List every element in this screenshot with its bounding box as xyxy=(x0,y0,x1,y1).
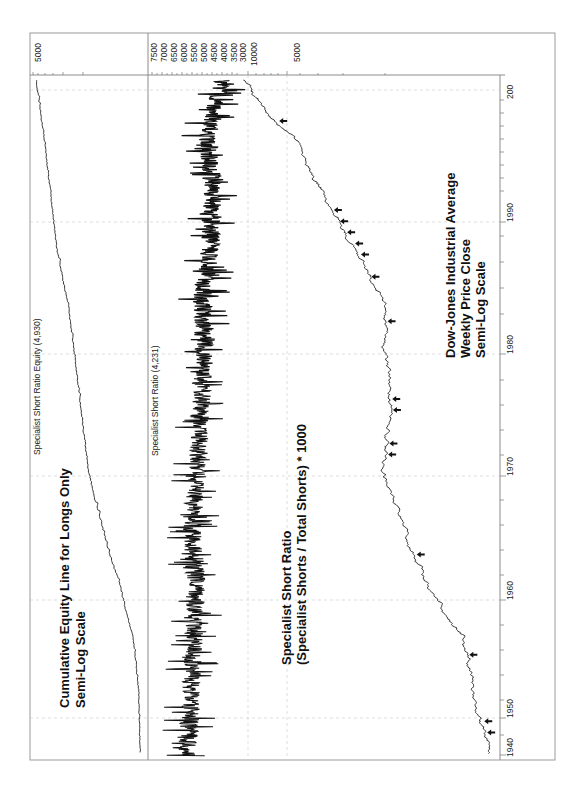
specialist-ratio-line xyxy=(163,80,246,756)
buy-arrow-icon xyxy=(279,118,287,124)
ratio-axis-label-6000: 6000 xyxy=(179,43,189,62)
equity-panel-title: Specialist Short Ratio Equity (4,930) xyxy=(32,318,42,455)
ratio-axis-label-7500: 7500 xyxy=(149,43,159,62)
buy-arrow-icon xyxy=(355,240,363,246)
buy-arrow-icon xyxy=(388,318,396,324)
ratio-axis-label-3000: 3000 xyxy=(238,43,248,62)
date-label-1990: 1990 xyxy=(505,203,515,222)
ratio-axis-label-6500: 6500 xyxy=(169,43,179,62)
buy-arrow-icon xyxy=(469,652,477,658)
date-axis-ticks xyxy=(500,100,506,755)
date-axis-labels: 200 1990 1980 1970 1960 1950 1940 xyxy=(505,85,515,757)
buy-arrow-icon xyxy=(484,718,492,724)
svg-text:Cumulative Equity Line for Lon: Cumulative Equity Line for Longs Only xyxy=(57,467,72,708)
equity-axis-label: 5000 xyxy=(33,43,43,62)
buy-arrow-icon xyxy=(393,407,401,413)
ratio-annotation: Specialist Short Ratio (Specialist Short… xyxy=(279,424,309,665)
svg-text:(Specialist Shorts / Total Sho: (Specialist Shorts / Total Shorts) * 100… xyxy=(294,424,309,665)
ratio-axis-label-5500: 5500 xyxy=(189,43,199,62)
djia-axis-label-5000: 5000 xyxy=(292,43,302,62)
djia-annotation: Dow-Jones Industrial Average Weekly Pric… xyxy=(443,173,488,358)
date-label-2000: 200 xyxy=(505,85,515,99)
svg-text:Specialist Short Ratio: Specialist Short Ratio xyxy=(279,531,294,665)
buy-arrow-icon xyxy=(371,274,379,280)
ratio-panel-title: Specialist Short Ratio (4,231) xyxy=(150,345,160,456)
buy-arrow-icon xyxy=(389,440,397,446)
date-label-1970: 1970 xyxy=(505,457,515,476)
buy-arrow-icon xyxy=(361,252,369,258)
svg-text:Weekly Price Close: Weekly Price Close xyxy=(458,239,473,358)
buy-arrow-icon xyxy=(417,552,425,558)
date-label-1940: 1940 xyxy=(505,738,515,757)
buy-arrow-icon xyxy=(392,396,400,402)
svg-text:Dow-Jones Industrial Average: Dow-Jones Industrial Average xyxy=(443,173,458,358)
svg-text:Semi-Log Scale: Semi-Log Scale xyxy=(73,611,88,708)
equity-annotation: Cumulative Equity Line for Longs Only Se… xyxy=(57,467,88,708)
buy-arrow-icon xyxy=(334,207,342,213)
buy-arrow-icon xyxy=(388,452,396,458)
equity-line xyxy=(37,80,141,752)
year-gridlines xyxy=(30,90,500,718)
date-label-1960: 1960 xyxy=(505,581,515,600)
date-label-1950: 1950 xyxy=(505,699,515,718)
value-axis-labels: 5000 7500 7000 6500 6000 5500 5000 4500 … xyxy=(33,42,302,66)
date-label-1980: 1980 xyxy=(505,335,515,354)
chart-canvas: 5000 7500 7000 6500 6000 5500 5000 4500 … xyxy=(0,0,588,790)
svg-text:Semi-Log Scale: Semi-Log Scale xyxy=(473,261,488,358)
buy-arrow-icon xyxy=(487,729,495,735)
buy-arrow-icon xyxy=(347,229,355,235)
value-axis-ticks xyxy=(33,71,385,75)
ratio-axis-label-5000: 5000 xyxy=(199,43,209,62)
buy-arrow-icon xyxy=(340,218,348,224)
ratio-axis-label-7000: 7000 xyxy=(159,43,169,62)
ratio-axis-label-4000: 4000 xyxy=(219,43,229,62)
ratio-axis-label-4500: 4500 xyxy=(209,43,219,62)
djia-axis-label-10000: 10000 xyxy=(249,42,259,66)
